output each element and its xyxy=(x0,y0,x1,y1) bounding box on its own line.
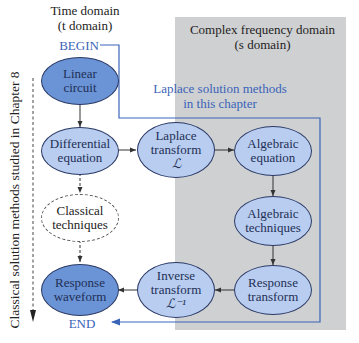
node-label: transform xyxy=(151,283,202,297)
node-label: Laplace xyxy=(155,129,196,143)
node-label: techniques xyxy=(52,218,108,232)
node-label: Algebraic xyxy=(247,207,298,221)
node-label: Response xyxy=(55,276,105,290)
node-label: transform xyxy=(248,290,299,304)
node-label: transform xyxy=(151,143,202,157)
node-label: techniques xyxy=(245,221,301,235)
node-classical-techniques: Classical techniques xyxy=(41,194,119,242)
node-laplace-transform: Laplace transform ℒ xyxy=(137,122,215,178)
node-label: equation xyxy=(58,151,103,165)
node-response-transform: Response transform xyxy=(234,265,312,315)
node-label: Classical xyxy=(57,204,104,218)
node-algebraic-equation: Algebraic equation xyxy=(234,126,312,176)
node-label: Algebraic xyxy=(247,137,298,151)
node-algebraic-techniques: Algebraic techniques xyxy=(234,196,312,246)
node-label: equation xyxy=(251,151,296,165)
node-label: Inverse xyxy=(157,269,195,283)
node-response-waveform: Response waveform xyxy=(41,264,119,316)
node-inverse-transform: Inverse transform ℒ⁻¹ xyxy=(137,262,215,318)
node-label: Differential xyxy=(50,137,110,151)
node-differential-equation: Differential equation xyxy=(41,127,119,175)
node-linear-circuit: Linear circuit xyxy=(41,57,119,105)
node-label: waveform xyxy=(54,290,107,304)
laplace-symbol-icon: ℒ xyxy=(172,157,181,171)
inverse-laplace-symbol-icon: ℒ⁻¹ xyxy=(166,297,186,311)
node-label: Linear xyxy=(63,67,97,81)
node-label: circuit xyxy=(63,81,96,95)
node-label: Response xyxy=(248,276,298,290)
